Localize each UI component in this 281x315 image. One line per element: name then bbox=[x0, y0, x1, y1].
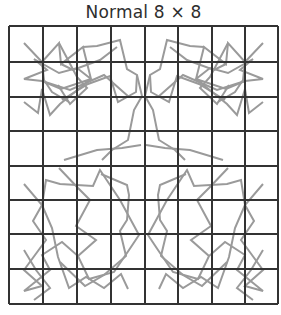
pattern-lines bbox=[24, 40, 263, 300]
grid-figure bbox=[0, 0, 281, 315]
